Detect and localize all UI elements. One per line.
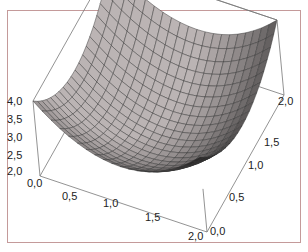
x-tick-1.0: 1,0 bbox=[103, 197, 118, 209]
z-tick-4.0: 4,0 bbox=[7, 95, 22, 107]
z-tick-2.5: 2,5 bbox=[7, 149, 22, 161]
z-tick-3.5: 3,5 bbox=[7, 113, 22, 125]
y-tick-1.0: 1,0 bbox=[248, 159, 263, 171]
x-axis-labels: 0,0 0,5 1,0 1,5 2,0 bbox=[27, 177, 203, 242]
x-tick-0.0: 0,0 bbox=[27, 177, 42, 189]
y-tick-2.0: 2,0 bbox=[278, 95, 293, 107]
y-tick-1.5: 1,5 bbox=[264, 136, 279, 148]
z-tick-3.0: 3,0 bbox=[7, 131, 22, 143]
x-tick-0.5: 0,5 bbox=[62, 190, 77, 202]
z-tick-2.0: 2,0 bbox=[7, 165, 22, 177]
surface-plot[interactable]: 4,0 3,5 3,0 2,5 2,0 0,0 0,5 1,0 1,5 2,0 … bbox=[0, 0, 308, 252]
z-axis-labels: 4,0 3,5 3,0 2,5 2,0 bbox=[7, 95, 22, 177]
y-tick-0.5: 0,5 bbox=[229, 191, 244, 203]
surface-mesh bbox=[33, 0, 277, 172]
x-tick-2.0: 2,0 bbox=[188, 230, 203, 242]
y-tick-0.0: 0,0 bbox=[210, 225, 225, 237]
x-tick-1.5: 1,5 bbox=[145, 211, 160, 223]
